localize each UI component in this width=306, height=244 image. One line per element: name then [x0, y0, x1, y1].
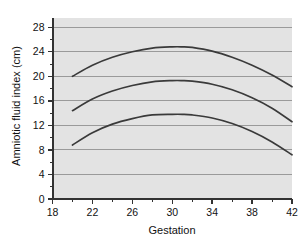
plot-background-group [53, 18, 293, 199]
y-tick-label-4: 4 [39, 168, 45, 180]
y-tick-label-20: 20 [33, 70, 45, 82]
chart-plot-svg: 0481216202428 18222630343842 [0, 0, 306, 244]
x-tick-label-30: 30 [166, 206, 178, 218]
y-tick-label-0: 0 [39, 193, 45, 205]
x-tick-label-18: 18 [47, 206, 59, 218]
y-tick-label-24: 24 [33, 45, 45, 57]
y-tick-label-12: 12 [33, 119, 45, 131]
y-tick-label-8: 8 [39, 144, 45, 156]
x-axis-title: Gestation [52, 224, 292, 236]
x-tick-labels-group: 18222630343842 [47, 206, 298, 218]
x-tick-label-26: 26 [126, 206, 138, 218]
plot-area-background [53, 18, 293, 199]
chart-container: Amniotic fluid index (cm) 0481216202428 … [0, 0, 306, 244]
x-tick-label-34: 34 [206, 206, 218, 218]
y-tick-label-16: 16 [33, 94, 45, 106]
y-tick-label-28: 28 [33, 21, 45, 33]
x-tick-label-22: 22 [87, 206, 99, 218]
x-tick-label-38: 38 [246, 206, 258, 218]
x-tick-label-42: 42 [286, 206, 298, 218]
y-tick-labels-group: 0481216202428 [33, 21, 45, 205]
